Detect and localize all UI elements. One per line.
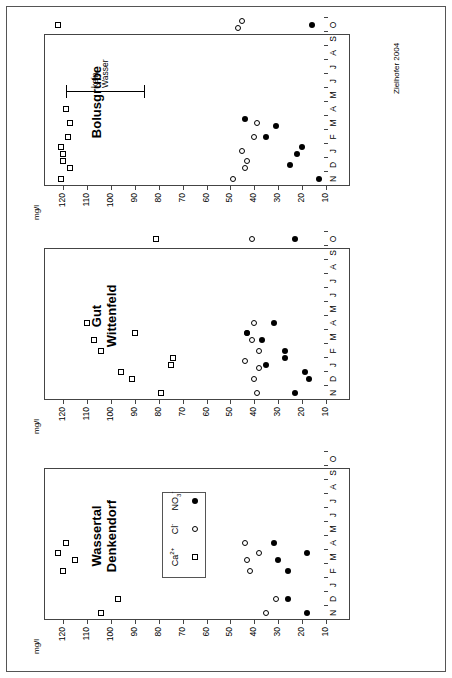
x-axis-tick-mark — [324, 507, 328, 508]
x-axis-tick-label: A — [329, 536, 338, 550]
x-axis-tick-label: N — [329, 172, 338, 186]
x-axis-tick-mark — [324, 549, 328, 550]
y-axis-tick-label: 30 — [273, 193, 282, 220]
data-point-chloride — [273, 596, 279, 602]
x-axis: NDJFMAMJJASO — [324, 468, 350, 620]
y-axis-tick-mark — [207, 186, 208, 190]
x-axis-tick-mark — [324, 157, 328, 158]
figure-frame: mg/l120110100908070605040302010NDJFMAMJJ… — [6, 6, 446, 672]
x-axis-tick-label: M — [329, 116, 338, 130]
y-axis-tick-mark — [230, 186, 231, 190]
y-axis-tick-label: 70 — [178, 627, 187, 654]
x-axis-tick-label: F — [329, 344, 338, 358]
y-axis-tick-label: 50 — [225, 627, 234, 654]
data-point-nitrate — [304, 610, 310, 616]
x-axis-tick-mark — [324, 73, 328, 74]
rotated-figure-canvas: mg/l120110100908070605040302010NDJFMAMJJ… — [6, 6, 446, 672]
x-axis-tick-mark — [324, 315, 328, 316]
x-axis: NDJFMAMJJASO — [324, 34, 350, 186]
x-axis-tick-label: O — [329, 452, 338, 466]
y-axis-tick-label: 40 — [249, 193, 258, 220]
data-point-calcium — [115, 596, 121, 602]
x-axis-tick-label: S — [329, 246, 338, 260]
y-axis-tick-mark — [302, 186, 303, 190]
x-axis-tick-label: A — [329, 46, 338, 60]
x-axis-tick-label: F — [329, 130, 338, 144]
x-axis-tick-label: M — [329, 302, 338, 316]
y-axis-tick-label: 70 — [178, 193, 187, 220]
data-point-calcium — [65, 134, 71, 140]
panel-title: Wassertal Denkendorf — [90, 460, 120, 612]
data-point-calcium — [91, 338, 97, 344]
x-axis-tick-mark — [324, 17, 328, 18]
x-axis-tick-label: M — [329, 522, 338, 536]
y-axis-tick-label: 50 — [225, 193, 234, 220]
data-point-nitrate — [271, 320, 277, 326]
y-axis-unit-label: mg/l — [32, 639, 41, 654]
x-axis-tick-mark — [324, 399, 328, 400]
x-axis-tick-mark — [324, 329, 328, 330]
data-point-nitrate — [285, 596, 291, 602]
y-axis-tick-label: 20 — [297, 627, 306, 654]
y-axis-tick-mark — [183, 620, 184, 624]
y-axis-tick-mark — [87, 186, 88, 190]
x-axis-tick-mark — [324, 245, 328, 246]
x-axis-tick-label: J — [329, 60, 338, 74]
y-axis-tick-mark — [135, 620, 136, 624]
y-axis-tick-mark — [302, 620, 303, 624]
x-axis-tick-label: O — [329, 232, 338, 246]
data-point-calcium — [63, 540, 69, 546]
data-point-calcium — [55, 551, 61, 557]
x-axis-tick-mark — [324, 287, 328, 288]
x-axis-tick-mark — [324, 535, 328, 536]
chart-panel-wassertal-denkendorf: mg/l120110100908070605040302010NDJFMAMJJ… — [44, 468, 376, 654]
data-point-calcium — [72, 558, 78, 564]
y-axis-tick-mark — [230, 620, 231, 624]
y-axis-tick-label: 30 — [273, 407, 282, 434]
data-point-nitrate — [316, 176, 322, 182]
x-axis-tick-mark — [324, 301, 328, 302]
x-axis-tick-mark — [324, 357, 328, 358]
y-axis-tick-label: 80 — [154, 627, 163, 654]
y-axis-tick-label: 50 — [225, 407, 234, 434]
x-axis-tick-mark — [324, 479, 328, 480]
y-axis-tick-mark — [87, 400, 88, 404]
y-axis-tick-mark — [207, 400, 208, 404]
data-point-nitrate — [292, 390, 298, 396]
data-point-chloride — [230, 176, 236, 182]
y-axis-tick-mark — [135, 400, 136, 404]
y-axis-tick-label: 80 — [154, 193, 163, 220]
x-axis-tick-label: J — [329, 508, 338, 522]
x-axis-tick-label: S — [329, 32, 338, 46]
data-point-calcium — [153, 236, 159, 242]
data-point-nitrate — [292, 236, 298, 242]
x-axis-tick-label: J — [329, 288, 338, 302]
y-axis-tick-mark — [326, 620, 327, 624]
data-point-chloride — [247, 568, 253, 574]
y-axis-tick-label: 60 — [202, 193, 211, 220]
x-axis-tick-label: O — [329, 18, 338, 32]
x-axis-tick-label: D — [329, 592, 338, 606]
data-point-calcium — [84, 320, 90, 326]
y-axis-tick-mark — [135, 186, 136, 190]
x-axis-tick-label: A — [329, 260, 338, 274]
x-axis-tick-label: J — [329, 74, 338, 88]
x-axis-tick-label: A — [329, 480, 338, 494]
y-axis-tick-label: 110 — [82, 407, 91, 434]
x-axis-tick-mark — [324, 465, 328, 466]
legend-marker-calcium — [192, 554, 198, 560]
y-axis-unit-label: mg/l — [32, 205, 41, 220]
y-axis-tick-mark — [326, 186, 327, 190]
legend-marker-nitrate — [192, 498, 198, 504]
x-axis-tick-label: D — [329, 372, 338, 386]
y-axis-tick-label: 90 — [130, 193, 139, 220]
x-axis-tick-mark — [324, 591, 328, 592]
x-axis-tick-label: M — [329, 330, 338, 344]
y-axis-tick-label: 70 — [178, 407, 187, 434]
data-point-calcium — [60, 159, 66, 165]
y-axis-tick-label: 60 — [202, 407, 211, 434]
data-point-calcium — [55, 22, 61, 28]
x-axis-tick-mark — [324, 619, 328, 620]
y-axis-tick-label: 120 — [58, 407, 67, 434]
y-axis-tick-mark — [159, 186, 160, 190]
